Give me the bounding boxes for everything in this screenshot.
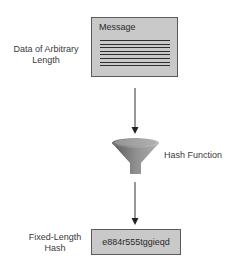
arrow-down-icon — [132, 88, 139, 134]
funnel-icon — [112, 138, 159, 174]
output-label-line2: Hash — [14, 243, 96, 254]
arrow-down-icon — [132, 182, 139, 225]
hash-function-label: Hash Function — [164, 150, 222, 161]
output-label: Fixed-Length Hash — [14, 232, 96, 254]
diagram-graphics — [0, 0, 248, 266]
hash-value: e884r555tggieqd — [102, 237, 170, 247]
output-label-line1: Fixed-Length — [14, 232, 96, 243]
hash-output-box: e884r555tggieqd — [91, 229, 181, 255]
